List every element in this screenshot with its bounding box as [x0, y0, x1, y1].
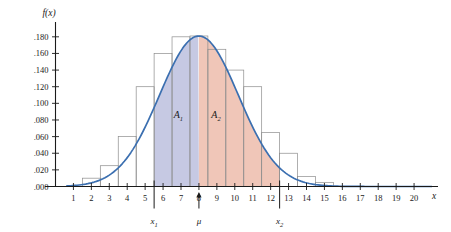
y-tick-label: .120	[34, 82, 49, 92]
x-tick-label: 6	[161, 193, 165, 203]
y-tick-label: .160	[34, 48, 49, 58]
y-tick-label: .180	[34, 32, 49, 42]
x-tick-label: 19	[392, 193, 401, 203]
x-tick-label: 17	[356, 193, 365, 203]
x-tick-label: 13	[284, 193, 293, 203]
x-tick-label: 14	[302, 193, 311, 203]
y-tick-label: .060	[34, 132, 49, 142]
x-tick-label: 9	[215, 193, 219, 203]
y-tick-label: .020	[34, 165, 49, 175]
x-tick-label: 12	[266, 193, 275, 203]
x-tick-label: 2	[89, 193, 93, 203]
y-tick-label: .040	[34, 148, 49, 158]
mu-marker-label: μ	[196, 216, 202, 226]
x-tick-label: 5	[143, 193, 147, 203]
x-tick-label: 20	[410, 193, 419, 203]
y-axis-title: f(x)	[42, 8, 55, 19]
y-tick-label: .140	[34, 65, 49, 75]
distribution-figure: f(x) x .000.020.040.060.080.100.120.140.…	[0, 0, 451, 232]
x-tick-label: 15	[320, 193, 329, 203]
x-tick-label: 10	[231, 193, 240, 203]
x-tick-label: 7	[179, 193, 183, 203]
y-tick-label: .000	[34, 182, 49, 192]
x-tick-label: 3	[107, 193, 111, 203]
x-tick-label: 4	[125, 193, 130, 203]
x-tick-label: 16	[338, 193, 347, 203]
x-axis-title: x	[431, 191, 437, 201]
y-tick-label: .100	[34, 98, 49, 108]
y-tick-label: .080	[34, 115, 49, 125]
x-tick-label: 18	[374, 193, 383, 203]
x-tick-label: 1	[71, 193, 75, 203]
x-tick-label: 11	[249, 193, 257, 203]
